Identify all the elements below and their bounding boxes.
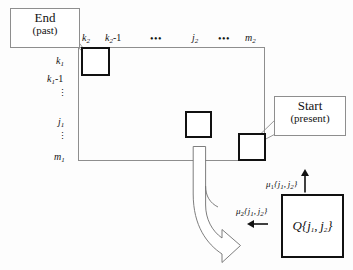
start-present-callout[interactable]: Start (present) xyxy=(274,96,346,136)
top-label-k2: k2 xyxy=(82,33,90,45)
top-label-k2-minus-1: k2-1 xyxy=(105,33,121,45)
mu2-transition-label: μ2{j1, j2} xyxy=(236,206,267,218)
top-ellipsis-1: ••• xyxy=(150,33,162,44)
top-label-j2: j2 xyxy=(192,33,198,45)
backtrack-arrow-shape xyxy=(193,147,240,263)
q-state-box[interactable]: Q{j1, j2} xyxy=(281,194,344,258)
left-label-j1: j1 xyxy=(58,117,64,129)
backtrack-arrow-inner-curl xyxy=(206,186,218,207)
end-callout-line1: End xyxy=(11,11,79,25)
left-label-k1-minus-1: k1-1 xyxy=(47,74,63,86)
mu1-arrow-glyph xyxy=(301,169,309,193)
start-callout-line2: (present) xyxy=(275,113,345,125)
top-label-m2: m2 xyxy=(245,33,256,45)
start-state-cell[interactable] xyxy=(238,133,266,161)
start-callout-line1: Start xyxy=(275,99,345,113)
left-ellipsis-1: ⋮ xyxy=(58,90,67,97)
end-callout-line2: (past) xyxy=(11,25,79,37)
left-ellipsis-2: ⋮ xyxy=(58,133,67,140)
q-state-box-text: Q{j1, j2} xyxy=(293,218,333,234)
end-state-cell[interactable] xyxy=(81,47,110,76)
left-label-k1: k1 xyxy=(56,56,64,68)
intermediate-state-cell[interactable] xyxy=(185,111,212,138)
figure-canvas: End (past) Start (present) k2 k2-1 ••• j… xyxy=(0,0,353,270)
end-past-callout[interactable]: End (past) xyxy=(10,8,80,48)
left-label-m1: m1 xyxy=(54,152,65,164)
mu2-arrow-glyph xyxy=(247,220,268,228)
top-ellipsis-2: ••• xyxy=(218,33,230,44)
mu1-transition-label: μ1{j1, j2} xyxy=(266,179,297,191)
